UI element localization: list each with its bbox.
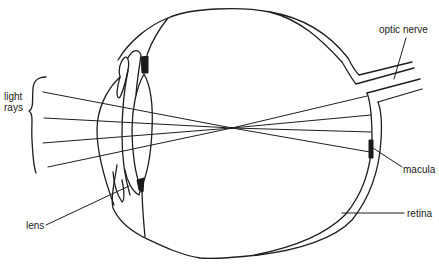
- light-ray-3: [43, 128, 232, 143]
- light-rays: [43, 92, 371, 167]
- cornea: [97, 77, 120, 205]
- macula-marker: [369, 140, 373, 158]
- light-rays-label: light rays: [4, 91, 23, 113]
- ciliary-upper-inner: [128, 51, 141, 95]
- optic-nerve-label: optic nerve: [379, 24, 428, 35]
- eye-diagram: [0, 0, 439, 265]
- light-ray-4: [48, 128, 232, 167]
- macula-label: macula: [403, 164, 435, 175]
- lens-leader: [46, 186, 129, 225]
- light-ray-4-after: [232, 96, 367, 128]
- eyeball-inner-top: [270, 12, 342, 62]
- light-rays-label-line1: light: [4, 91, 23, 102]
- lens-shape: [132, 74, 152, 188]
- lens-label: lens: [26, 220, 44, 231]
- eyeball-outer-right: [258, 102, 381, 255]
- retina-label: retina: [407, 208, 432, 219]
- optic-nerve-leader: [394, 38, 406, 79]
- eyeball-outer-top: [168, 9, 348, 58]
- retina-line: [255, 93, 372, 255]
- light-rays-brace: [29, 77, 46, 173]
- optic-nerve-upper-inner: [342, 62, 414, 84]
- ciliary-upper: [118, 18, 168, 60]
- eyeball-lower-front: [112, 165, 143, 237]
- optic-nerve-upper-outer: [348, 58, 412, 75]
- light-ray-3-after: [232, 115, 371, 128]
- light-rays-label-line2: rays: [4, 102, 23, 113]
- pigment-lower: [137, 178, 144, 192]
- ciliary-lower: [142, 188, 145, 237]
- eyeball-outer-bottom: [143, 237, 258, 258]
- pigment-upper: [141, 56, 148, 73]
- optic-nerve-lower-outer: [367, 79, 420, 93]
- optic-nerve-lower-inner: [378, 89, 422, 102]
